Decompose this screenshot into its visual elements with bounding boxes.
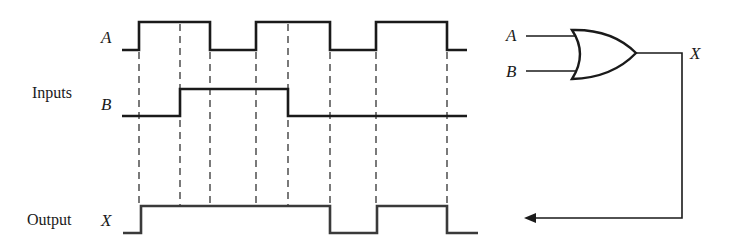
signal-b-label: B	[101, 96, 111, 113]
gate-output-x-label: X	[690, 45, 700, 62]
arrowhead-icon	[524, 213, 536, 223]
output-label: Output	[27, 212, 71, 228]
or-gate-timing-diagram: A Inputs B Output X A B X	[0, 0, 730, 251]
signal-a-label: A	[101, 29, 111, 46]
gate-input-a-label: A	[506, 27, 516, 44]
waveform-a	[122, 22, 467, 50]
or-gate-body	[572, 30, 636, 79]
gate-output-wire	[534, 53, 682, 218]
or-gate	[524, 30, 682, 223]
waveform-b	[122, 89, 467, 116]
inputs-label: Inputs	[32, 85, 72, 101]
signal-x-label: X	[101, 212, 111, 229]
gate-input-b-label: B	[506, 63, 516, 80]
waveform-x	[123, 206, 478, 233]
